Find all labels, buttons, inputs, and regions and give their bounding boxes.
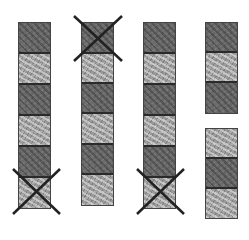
block: [19, 54, 50, 85]
block: [19, 116, 50, 147]
block: [144, 23, 175, 54]
block: [206, 23, 237, 53]
block: [144, 147, 175, 178]
block: [82, 114, 113, 145]
block: [144, 116, 175, 147]
column-2: [81, 22, 114, 206]
block: [82, 145, 113, 175]
block: [82, 175, 113, 205]
block: [19, 147, 50, 178]
block: [144, 54, 175, 85]
block: [82, 23, 113, 54]
block: [206, 159, 237, 189]
block: [144, 85, 175, 116]
block: [206, 53, 237, 83]
block: [19, 23, 50, 54]
block: [19, 85, 50, 116]
block: [82, 84, 113, 114]
block: [144, 178, 175, 208]
block: [206, 189, 237, 218]
column-4-bottom-group: [205, 128, 238, 219]
block: [206, 83, 237, 113]
block: [19, 178, 50, 208]
column-3: [143, 22, 176, 209]
block: [82, 54, 113, 84]
block: [206, 129, 237, 159]
column-4-top-group: [205, 22, 238, 114]
column-1: [18, 22, 51, 209]
